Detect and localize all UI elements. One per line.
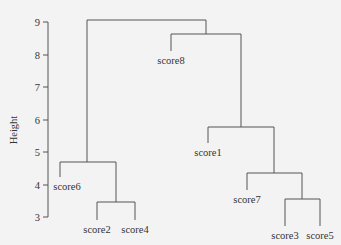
- tick-4: 4: [35, 180, 41, 191]
- leaf-score1: score1: [194, 147, 221, 158]
- leaf-score5: score5: [306, 230, 333, 241]
- y-axis: [43, 22, 48, 217]
- leaf-score6: score6: [53, 181, 80, 192]
- tick-3: 3: [35, 212, 40, 223]
- dendrogram-branches: [60, 20, 320, 226]
- leaf-labels: score6 score2 score4 score8 score1 score…: [53, 55, 333, 241]
- leaf-score4: score4: [121, 224, 149, 235]
- dendrogram-chart: 9 8 7 6 5 4 3 Height score6 score2 score…: [0, 0, 341, 245]
- leaf-score7: score7: [233, 194, 260, 205]
- leaf-score2: score2: [83, 224, 110, 235]
- tick-9: 9: [35, 17, 40, 28]
- tick-5: 5: [35, 147, 40, 158]
- tick-8: 8: [35, 50, 40, 61]
- tick-7: 7: [35, 82, 40, 93]
- leaf-score8: score8: [157, 55, 184, 66]
- leaf-score3: score3: [271, 230, 298, 241]
- y-axis-label: Height: [8, 116, 19, 145]
- y-tick-labels: 9 8 7 6 5 4 3: [35, 17, 41, 223]
- tick-6: 6: [35, 115, 40, 126]
